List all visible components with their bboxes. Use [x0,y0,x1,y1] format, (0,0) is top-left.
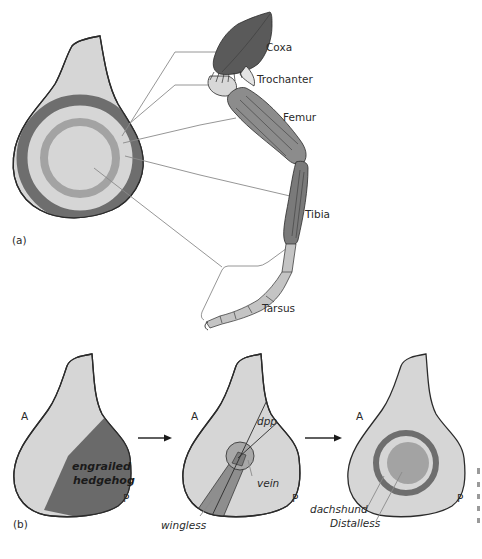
label-posterior-1: P [123,492,129,504]
panel-a-label: (a) [12,234,27,246]
distalless-center [387,442,429,484]
cropped-caption-edge [477,468,480,523]
insect-leg [205,12,308,330]
leader-tibia [125,156,290,196]
label-posterior-2: P [292,492,298,504]
label-tarsus: Tarsus [261,302,295,314]
wing-disc-stage-2: dpp vein wingless A P [161,354,300,531]
label-hedgehog: hedgehog [73,474,135,487]
disc-outline-2 [183,354,300,517]
leader-tarsus [94,168,222,267]
label-coxa: Coxa [266,41,292,53]
tarsus [206,244,296,328]
label-femur: Femur [283,111,317,123]
leader-femur [123,118,236,143]
coxa [213,12,272,75]
panel-a: Coxa Trochanter Femur Tibia Tarsus (a) [12,12,330,330]
label-engrailed: engrailed [72,460,131,473]
label-tibia: Tibia [304,208,330,220]
label-posterior-3: P [457,492,463,504]
wing-disc-stage-1: engrailed hedgehog A P [14,354,140,530]
arrow-2 [305,435,342,442]
label-distalless: Distalless [330,517,381,529]
label-trochanter: Trochanter [256,73,313,85]
panel-b-label: (b) [13,518,28,530]
label-anterior-2: A [191,410,199,422]
wing-disc-stage-3: dachshund Distalless A P [310,354,465,529]
label-wingless: wingless [161,519,207,531]
panel-b: engrailed hedgehog A P dpp vei [13,354,465,531]
label-anterior-3: A [356,410,364,422]
label-vein: vein [257,477,279,489]
label-anterior-1: A [21,410,29,422]
label-dachshund: dachshund [310,503,368,515]
imaginal-disc-figure: Coxa Trochanter Femur Tibia Tarsus (a) e… [0,0,482,559]
arrow-1 [138,435,172,442]
label-dpp: dpp [257,415,277,427]
leader-coxa [122,52,218,136]
